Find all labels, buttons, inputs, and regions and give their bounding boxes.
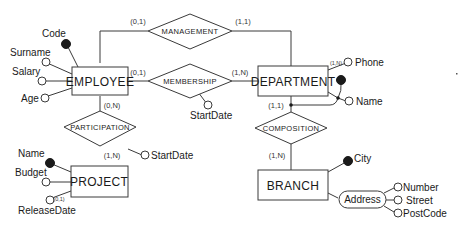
card-branch-composition: (1,N)	[269, 151, 286, 160]
edge-employee-age	[45, 88, 72, 97]
attribute-icon	[42, 178, 50, 186]
key-attribute-icon	[344, 157, 353, 166]
entity-department-label: DEPARTMENT	[251, 75, 336, 89]
attr-project-name: Name	[18, 148, 45, 159]
edge-management-department	[232, 31, 291, 66]
entity-branch[interactable]: BRANCH	[258, 170, 328, 200]
relationship-composition[interactable]: COMPOSITION	[255, 112, 327, 144]
attr-address-number: Number	[403, 182, 439, 193]
attr-department-name: Name	[356, 96, 383, 107]
attr-branch-city: City	[354, 153, 371, 164]
attr-employee-salary: Salary	[12, 66, 40, 77]
attribute-icon	[394, 209, 402, 217]
key-attribute-icon	[62, 40, 71, 49]
identifier-junction	[336, 96, 340, 100]
attribute-icon	[394, 196, 402, 204]
entity-branch-label: BRANCH	[267, 179, 319, 193]
external-identifier-junction	[289, 103, 293, 107]
attr-employee-code: Code	[42, 28, 66, 39]
card-employee-membership: (0,1)	[130, 68, 146, 77]
entity-department[interactable]: DEPARTMENT	[251, 66, 336, 96]
attr-project-releasedate: ReleaseDate	[18, 205, 76, 216]
attr-address-street: Street	[406, 195, 433, 206]
relationship-composition-label: COMPOSITION	[263, 124, 320, 133]
card-project-releasedate: (0,1)	[53, 196, 64, 202]
relationship-participation-label: PARTICIPATION	[70, 123, 130, 132]
attribute-icon	[345, 97, 353, 105]
edge-employee-management	[100, 31, 148, 63]
edge-name-key	[338, 84, 341, 98]
edge-project-name	[52, 164, 71, 172]
relationship-management-label: MANAGEMENT	[162, 27, 219, 36]
card-department-composition: (1,1)	[268, 101, 284, 110]
card-department-phone: (1,N)	[330, 60, 342, 66]
relationship-participation[interactable]: PARTICIPATION	[64, 111, 136, 146]
attr-address-postcode: PostCode	[403, 208, 447, 219]
attribute-icon	[394, 183, 402, 191]
card-employee-management: (0,1)	[130, 17, 146, 26]
stray-dot	[456, 73, 458, 75]
attr-department-phone: Phone	[355, 57, 384, 68]
attribute-icon	[42, 58, 50, 66]
relationship-membership-label: MEMBERSHIP	[163, 77, 216, 86]
edge-department-identifier	[291, 98, 338, 105]
edge-address-number	[384, 188, 394, 193]
attribute-icon	[344, 58, 352, 66]
relationship-membership[interactable]: MEMBERSHIP	[148, 64, 232, 98]
card-employee-participation: (0,N)	[104, 101, 121, 110]
entity-employee-label: EMPLOYEE	[66, 75, 134, 89]
attr-branch-address: Address	[344, 194, 381, 205]
composite-attribute-address[interactable]: Address	[339, 191, 386, 208]
card-department-membership: (1,N)	[232, 68, 249, 77]
key-attribute-icon	[46, 159, 55, 168]
card-project-participation: (1,N)	[104, 151, 121, 160]
attr-participation-startdate: StartDate	[151, 150, 194, 161]
attr-membership-startdate: StartDate	[190, 110, 233, 121]
attribute-icon	[38, 77, 46, 85]
attribute-icon	[204, 101, 212, 109]
entity-project[interactable]: PROJECT	[70, 166, 128, 197]
edge-address-postcode	[384, 206, 394, 212]
entity-employee[interactable]: EMPLOYEE	[66, 67, 134, 95]
attribute-icon	[141, 151, 149, 159]
attr-project-budget: Budget	[15, 167, 47, 178]
edge-participation-startdate	[128, 149, 142, 155]
attr-employee-age: Age	[21, 93, 39, 104]
card-department-management: (1,1)	[235, 17, 251, 26]
key-attribute-icon	[337, 76, 346, 85]
er-diagram: MANAGEMENT MEMBERSHIP PARTICIPATION COMP…	[0, 0, 460, 231]
edge-branch-city	[328, 162, 346, 172]
relationship-management[interactable]: MANAGEMENT	[148, 14, 232, 49]
attr-employee-surname: Surname	[10, 47, 51, 58]
edge-branch-address	[328, 193, 338, 198]
edge-employee-code	[67, 45, 78, 67]
attribute-icon	[41, 94, 49, 102]
entity-project-label: PROJECT	[70, 175, 128, 189]
